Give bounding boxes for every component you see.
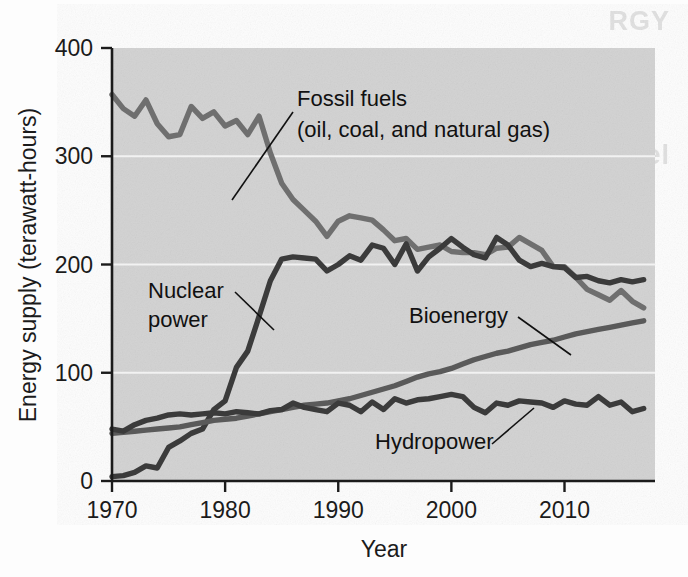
y-tick-label: 200 — [55, 252, 93, 278]
x-tick-label: 2010 — [539, 497, 590, 523]
y-axis-title: Energy supply (terawatt-hours) — [15, 108, 41, 422]
x-tick-label: 1980 — [200, 497, 251, 523]
series-label-nuclear: Nuclear — [148, 278, 224, 303]
line-chart: 0100200300400 19701980199020002010 Energ… — [0, 0, 688, 577]
series-label-nuclear-power: power — [148, 307, 208, 332]
series-label-fossil-fuels-sub: (oil, coal, and natural gas) — [297, 117, 550, 142]
series-label-bioenergy: Bioenergy — [409, 303, 508, 328]
y-tick-label: 400 — [55, 35, 93, 61]
x-tick-label: 1970 — [86, 497, 137, 523]
series-label-fossil-fuels: Fossil fuels — [297, 86, 407, 111]
x-tick-label: 2000 — [426, 497, 477, 523]
y-tick-label: 0 — [80, 468, 93, 494]
x-tick-label: 1990 — [313, 497, 364, 523]
figure-container: RGY en Free Israel idable 0100200300400 … — [0, 0, 688, 577]
y-axis-ticks: 0100200300400 — [55, 35, 112, 494]
series-label-hydropower: Hydropower — [375, 429, 494, 454]
x-axis-title: Year — [361, 536, 408, 562]
y-tick-label: 300 — [55, 143, 93, 169]
x-axis-ticks: 19701980199020002010 — [86, 481, 590, 523]
y-tick-label: 100 — [55, 360, 93, 386]
